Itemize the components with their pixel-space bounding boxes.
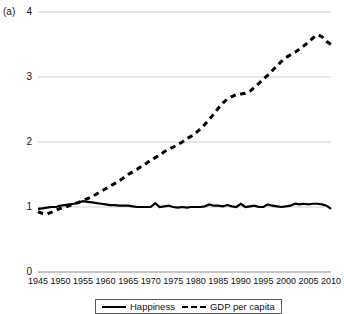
legend-swatch-dashed-line-icon: [182, 306, 206, 308]
series-line-happiness: [38, 201, 331, 209]
series-line-gdp-per-capita: [38, 35, 331, 214]
y-tick-label-4: 4: [18, 6, 32, 17]
y-tick-label-1: 1: [18, 201, 32, 212]
y-tick-label-3: 3: [18, 71, 32, 82]
x-tick-label-2010: 2010: [318, 276, 344, 286]
chart-legend: Happiness GDP per capita: [95, 299, 282, 314]
legend-label-happiness: Happiness: [130, 301, 175, 312]
legend-entry-gdp-per-capita: GDP per capita: [182, 301, 275, 312]
legend-entry-happiness: Happiness: [102, 301, 175, 312]
legend-label-gdp-per-capita: GDP per capita: [210, 301, 275, 312]
legend-swatch-solid-line-icon: [102, 306, 126, 308]
y-tick-label-2: 2: [18, 136, 32, 147]
